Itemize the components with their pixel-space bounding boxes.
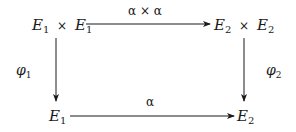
bottom-arrow-label: α bbox=[146, 95, 154, 109]
subscript: 2 bbox=[276, 70, 282, 80]
node-top-left: E1 × E1 bbox=[32, 16, 92, 35]
node-bottom-left: E1 bbox=[49, 107, 66, 126]
symbol-e: E bbox=[32, 16, 43, 34]
phi-symbol: φ bbox=[266, 62, 276, 78]
subscript: 2 bbox=[248, 115, 254, 126]
symbol-e: E bbox=[237, 107, 248, 125]
subscript: 1 bbox=[43, 24, 49, 35]
subscript: 2 bbox=[268, 24, 274, 35]
top-arrow-label: α × α bbox=[128, 4, 162, 18]
symbol-e: E bbox=[49, 107, 60, 125]
node-top-right: E2 × E2 bbox=[214, 16, 274, 35]
symbol-e: E bbox=[214, 16, 225, 34]
commutative-diagram: E1 × E1 E2 × E2 E1 E2 α × α α φ1 φ2 bbox=[0, 0, 296, 132]
product-operator: × bbox=[239, 19, 249, 33]
symbol-e: E bbox=[257, 16, 268, 34]
symbol-e: E bbox=[75, 16, 86, 34]
right-arrow-label: φ2 bbox=[266, 62, 282, 80]
product-operator: × bbox=[57, 19, 67, 33]
subscript: 1 bbox=[86, 24, 92, 35]
subscript: 2 bbox=[225, 24, 231, 35]
subscript: 1 bbox=[60, 115, 66, 126]
subscript: 1 bbox=[26, 70, 32, 80]
left-arrow-label: φ1 bbox=[16, 62, 32, 80]
node-bottom-right: E2 bbox=[237, 107, 254, 126]
phi-symbol: φ bbox=[16, 62, 26, 78]
